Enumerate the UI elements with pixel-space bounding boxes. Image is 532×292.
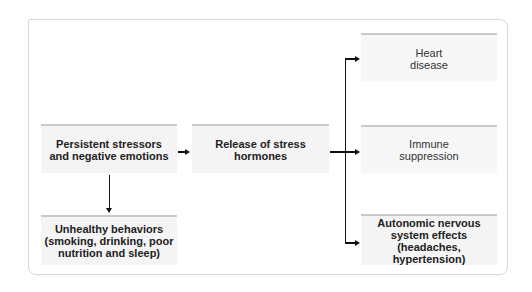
arrow-to-heart-disease	[345, 58, 355, 60]
node-autonomic-effects: Autonomic nervous system effects (headac…	[361, 214, 497, 265]
node-immune-suppression: Immune suppression	[361, 125, 497, 173]
branch-trunk	[345, 58, 347, 243]
node-label: Persistent stressors	[49, 138, 168, 150]
node-label: nutrition and sleep)	[45, 247, 174, 259]
node-label: Autonomic nervous	[361, 217, 497, 229]
arrowhead-icon	[355, 149, 360, 155]
node-label: suppression	[399, 150, 458, 162]
node-label: and negative emotions	[49, 150, 168, 162]
node-label: disease	[410, 59, 448, 71]
node-unhealthy-behaviors: Unhealthy behaviors (smoking, drinking, …	[41, 215, 177, 265]
arrowhead-icon	[355, 56, 360, 62]
node-label: (smoking, drinking, poor	[45, 235, 174, 247]
node-release-stress-hormones: Release of stress hormones	[192, 124, 329, 173]
node-label: system effects	[361, 229, 497, 241]
arrowhead-icon	[355, 240, 360, 246]
arrow-hormones-to-branch	[330, 151, 355, 153]
node-label: Heart	[410, 47, 448, 59]
node-label: (headaches, hypertension)	[361, 241, 497, 265]
node-heart-disease: Heart disease	[361, 33, 497, 81]
node-label: hormones	[215, 150, 306, 162]
arrowhead-icon	[106, 208, 112, 213]
arrow-to-autonomic-effects	[345, 242, 355, 244]
node-label: Unhealthy behaviors	[45, 223, 174, 235]
node-persistent-stressors: Persistent stressors and negative emotio…	[41, 124, 177, 173]
arrow-stressors-to-behaviors	[109, 175, 111, 209]
arrowhead-icon	[185, 149, 190, 155]
node-label: Immune	[399, 138, 458, 150]
node-label: Release of stress	[215, 138, 306, 150]
